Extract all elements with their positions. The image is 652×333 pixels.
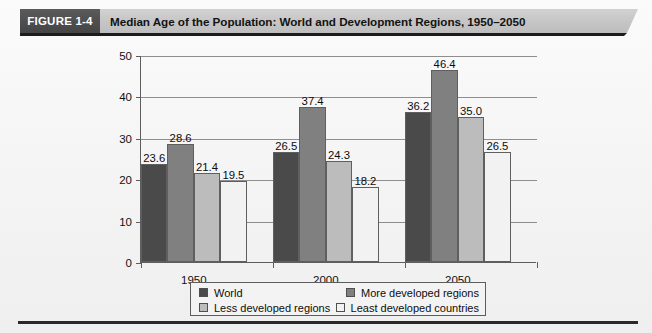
x-axis-tick [537, 262, 538, 268]
bar [484, 152, 510, 262]
y-axis-tick-label: 10 [119, 216, 132, 228]
legend-item-less-developed-regions[interactable]: Less developed regions [199, 302, 336, 314]
bar [273, 152, 299, 262]
legend-item-least-developed-countries[interactable]: Least developed countries [336, 302, 479, 314]
bar-value-label: 18.2 [353, 175, 377, 187]
legend-label-less-developed-regions: Less developed regions [214, 302, 330, 314]
bar [220, 181, 246, 262]
legend-swatch-less-developed-regions [199, 303, 208, 312]
plot-area: 01020304050195023.628.621.419.5200026.53… [140, 56, 536, 263]
chart-legend: World More developed regions Less develo… [190, 282, 486, 316]
y-axis-tick-label: 50 [119, 50, 132, 62]
bar [352, 187, 378, 262]
gridline [141, 56, 537, 57]
legend-item-more-developed-regions[interactable]: More developed regions [346, 287, 479, 299]
legend-label-more-developed-regions: More developed regions [361, 287, 479, 299]
legend-swatch-world [199, 288, 208, 297]
bar-value-label: 19.5 [221, 169, 245, 181]
bar [405, 112, 431, 262]
x-axis-tick [141, 262, 142, 268]
bar [326, 161, 352, 262]
figure-number-badge: FIGURE 1-4 [20, 9, 100, 33]
bar [167, 144, 193, 262]
legend-swatch-more-developed-regions [346, 288, 355, 297]
gridline [141, 97, 537, 98]
figure-title: Median Age of the Population: World and … [110, 9, 525, 33]
y-axis-tick-label: 30 [119, 133, 132, 145]
legend-label-world: World [214, 287, 243, 299]
bar-value-label: 37.4 [301, 95, 325, 107]
bar-value-label: 24.3 [327, 149, 351, 161]
y-axis-tick [136, 139, 141, 140]
bar [194, 173, 220, 262]
y-axis-tick [136, 97, 141, 98]
legend-swatch-least-developed-countries [336, 303, 345, 312]
x-axis-tick [405, 262, 406, 268]
bar-value-label: 36.2 [406, 100, 430, 112]
bar [431, 70, 457, 262]
bar [141, 164, 167, 262]
legend-row-2: Less developed regions Least developed c… [199, 300, 479, 315]
bar-value-label: 28.6 [169, 132, 193, 144]
y-axis-tick [136, 56, 141, 57]
figure-container: FIGURE 1-4 Median Age of the Population:… [0, 0, 652, 333]
bar-value-label: 21.4 [195, 161, 219, 173]
bar-value-label: 46.4 [433, 58, 457, 70]
y-axis-tick-label: 20 [119, 174, 132, 186]
figure-bottom-rule [18, 321, 638, 324]
bar-value-label: 35.0 [459, 105, 483, 117]
bar [458, 117, 484, 262]
chart-area: 01020304050195023.628.621.419.5200026.53… [0, 36, 652, 316]
legend-item-world[interactable]: World [199, 287, 346, 299]
bar-value-label: 23.6 [142, 152, 166, 164]
legend-row-1: World More developed regions [199, 285, 479, 300]
bar-value-label: 26.5 [274, 140, 298, 152]
y-axis-tick-label: 0 [126, 257, 132, 269]
x-axis-tick [273, 262, 274, 268]
legend-label-least-developed-countries: Least developed countries [351, 302, 479, 314]
bar-value-label: 26.5 [485, 140, 509, 152]
y-axis-tick-label: 40 [119, 91, 132, 103]
bar [299, 107, 325, 262]
